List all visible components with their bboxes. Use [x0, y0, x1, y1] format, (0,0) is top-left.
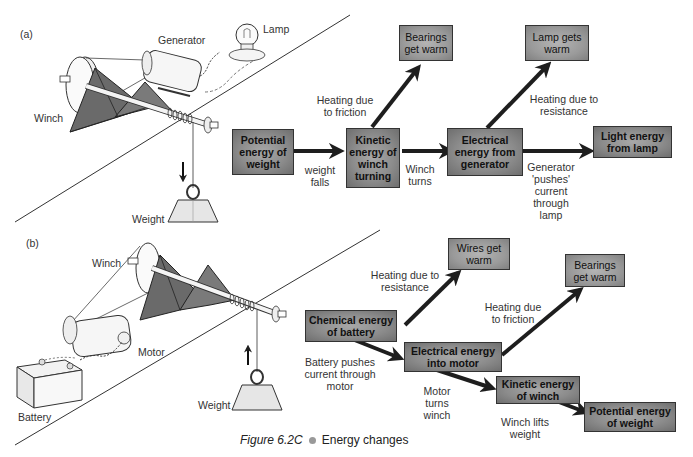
motor-label: Motor	[138, 346, 165, 358]
label-heating-resistance-a: Heating due to resistance	[528, 93, 600, 117]
weight-label-a: Weight	[132, 213, 165, 225]
caption-figure-number: Figure 6.2C	[240, 433, 303, 447]
label-winch-lifts: Winch lifts weight	[500, 416, 550, 440]
label-generator-pushes: Generator 'pushes' current through lamp	[522, 161, 580, 221]
box-kinetic-energy-a: Kinetic energy of winch turning	[346, 128, 400, 188]
label-heating-resistance-b: Heating due to resistance	[370, 269, 440, 293]
box-bearings-warm-b: Bearings get warm	[565, 254, 625, 287]
box-potential-energy-b: Potential energy of weight	[584, 402, 676, 432]
lamp-label: Lamp	[263, 23, 289, 35]
label-battery-pushes: Battery pushes current through motor	[300, 356, 380, 392]
box-chemical-energy: Chemical energy of battery	[305, 310, 397, 342]
box-bearings-warm-a: Bearings get warm	[399, 25, 453, 61]
bullet-icon	[309, 437, 316, 444]
label-motor-turns: Motor turns winch	[412, 385, 462, 421]
label-winch-turns: Winch turns	[400, 163, 440, 187]
winch-label-a: Winch	[34, 112, 63, 124]
label-weight-falls: weight falls	[298, 164, 342, 188]
caption-title: Energy changes	[322, 433, 409, 447]
battery-label: Battery	[18, 411, 51, 423]
box-kinetic-energy-b: Kinetic energy of winch	[496, 376, 580, 404]
box-wires-warm: Wires get warm	[448, 238, 510, 270]
box-electrical-energy-b: Electrical energy into motor	[404, 342, 502, 372]
generator-label: Generator	[158, 34, 205, 46]
figure-caption: Figure 6.2CEnergy changes	[240, 433, 408, 447]
box-lamp-warm: Lamp gets warm	[525, 25, 589, 61]
part-a-tag: (a)	[20, 28, 33, 40]
winch-label-b: Winch	[92, 257, 121, 269]
battery-illustration	[17, 357, 82, 408]
part-b-tag: (b)	[26, 237, 39, 249]
weight-label-b: Weight	[198, 399, 231, 411]
energy-changes-figure: (a) Generator Lamp Winch Weight Potentia…	[0, 0, 693, 457]
box-light-energy: Light energy from lamp	[593, 126, 672, 158]
label-heating-friction-a: Heating due to friction	[312, 94, 378, 118]
motor-illustration	[63, 314, 132, 360]
box-potential-energy-a: Potential energy of weight	[232, 129, 294, 175]
label-heating-friction-b: Heating due to friction	[480, 301, 546, 325]
lamp-illustration	[229, 24, 265, 61]
box-electrical-energy-a: Electrical energy from generator	[447, 128, 523, 176]
